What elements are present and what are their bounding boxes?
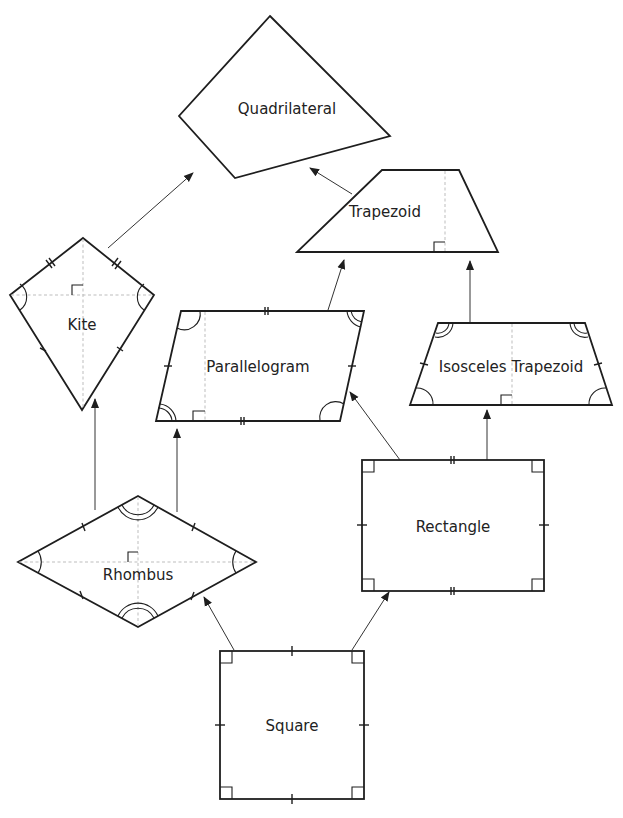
rhombus-label: Rhombus bbox=[103, 566, 174, 584]
quadrilateral-hierarchy-diagram: Quadrilateral Trapezoid Kite bbox=[0, 0, 623, 818]
square-shape: Square bbox=[215, 646, 369, 804]
arrow-trapezoid-to-quadrilateral bbox=[310, 168, 352, 194]
trapezoid-label: Trapezoid bbox=[348, 203, 421, 221]
arrow-kite-to-quadrilateral bbox=[108, 173, 193, 248]
arrow-square-to-rhombus bbox=[204, 597, 234, 650]
isosceles-trapezoid-shape: Isosceles Trapezoid bbox=[410, 323, 612, 405]
arrow-square-to-rectangle bbox=[352, 592, 389, 650]
quadrilateral-label: Quadrilateral bbox=[238, 100, 336, 118]
kite-shape: Kite bbox=[10, 238, 154, 410]
arrow-parallelogram-to-trapezoid bbox=[328, 260, 344, 310]
parallelogram-label: Parallelogram bbox=[206, 358, 309, 376]
arrow-rectangle-to-parallelogram bbox=[350, 392, 400, 460]
rectangle-label: Rectangle bbox=[416, 518, 491, 536]
rhombus-shape: Rhombus bbox=[18, 496, 256, 627]
trapezoid-shape: Trapezoid bbox=[297, 170, 498, 252]
kite-label: Kite bbox=[67, 316, 96, 334]
parallelogram-shape: Parallelogram bbox=[156, 307, 364, 425]
isosceles-trapezoid-label: Isosceles Trapezoid bbox=[439, 358, 584, 376]
rectangle-shape: Rectangle bbox=[357, 456, 549, 595]
square-label: Square bbox=[266, 717, 319, 735]
quadrilateral-shape: Quadrilateral bbox=[179, 16, 390, 178]
